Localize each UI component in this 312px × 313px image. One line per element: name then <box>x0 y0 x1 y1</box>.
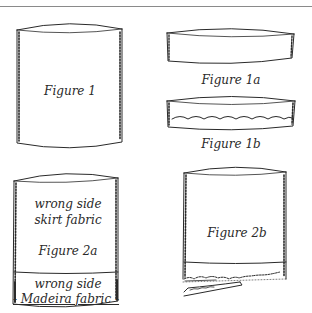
figure-1b-label: Figure 1b <box>200 138 262 150</box>
figure-1-label: Figure 1 <box>44 85 96 97</box>
figure-1b-scalloped-band <box>167 97 295 130</box>
figure-2a-madeira-fabric-label: - Madeira fabric - <box>12 293 120 305</box>
figure-2b-label: Figure 2b <box>205 227 269 239</box>
figure-2a-label: Figure 2a <box>32 245 104 257</box>
figure-2a-band-wrong-side-label: wrong side <box>28 278 108 290</box>
sewing-diagram <box>0 0 312 313</box>
figure-2a-skirt-fabric-label: skirt fabric <box>28 214 108 226</box>
figure-1a-band <box>167 29 294 64</box>
figure-1a-label: Figure 1a <box>200 74 262 86</box>
figure-2a-wrong-side-label: wrong side <box>28 198 108 210</box>
